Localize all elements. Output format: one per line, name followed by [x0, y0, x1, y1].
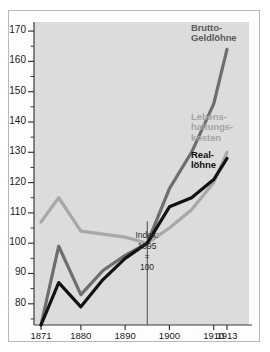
x-tick-label: 1880 [64, 331, 98, 341]
y-tick-label: 80 [0, 298, 26, 309]
chart-frame: 8090100110120130140150160170 18711880189… [8, 10, 260, 342]
y-tick-label: 120 [0, 177, 26, 188]
y-tick-label: 100 [0, 237, 26, 248]
y-tick-label: 130 [0, 146, 26, 157]
x-tick-label: 1871 [24, 331, 58, 341]
chart-figure: 8090100110120130140150160170 18711880189… [0, 0, 270, 352]
x-tick-label: 1900 [152, 331, 186, 341]
x-tick-label: 1890 [108, 331, 142, 341]
series-label-realloehne: Real- löhne [191, 150, 216, 171]
y-tick-label: 140 [0, 116, 26, 127]
x-tick-label: 1913 [210, 331, 244, 341]
y-tick-label: 170 [0, 25, 26, 36]
y-tick-label: 110 [0, 207, 26, 218]
y-tick-label: 150 [0, 86, 26, 97]
y-tick-label: 160 [0, 55, 26, 66]
series-label-brutto-geldloehne: Brutto- Geldlöhne [191, 23, 237, 44]
y-tick-marks [28, 31, 34, 319]
series-label-lebenshaltungskosten: Lebens- haltungs- kosten [191, 112, 233, 143]
y-tick-label: 90 [0, 267, 26, 278]
chart-plot-area [9, 11, 259, 341]
index-annotation: Index: 1895 = 100 [117, 230, 177, 273]
